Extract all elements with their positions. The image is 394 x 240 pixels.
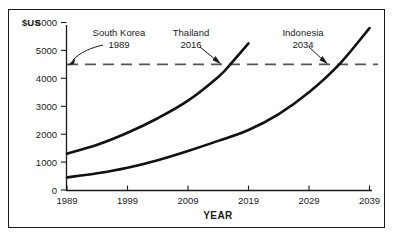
y-tick-label-2000: 2000 xyxy=(36,129,57,140)
annotation-indonesia-leader xyxy=(309,47,323,60)
x-axis-ticks xyxy=(67,186,370,191)
x-tick-label-1999: 1999 xyxy=(117,195,138,206)
annotation-south-korea-country: South Korea xyxy=(93,27,147,38)
annotation-thailand-country: Thailand xyxy=(173,27,209,38)
chart-figure: 6000 5000 4000 3000 2000 1000 0 $US 1989… xyxy=(0,0,394,240)
annotation-indonesia-country: Indonesia xyxy=(282,27,324,38)
annotation-thailand-year: 2016 xyxy=(180,39,201,50)
annotation-south-korea-leader xyxy=(73,45,104,61)
y-axis-unit-label: $US xyxy=(22,17,40,28)
annotation-south-korea: South Korea 1989 xyxy=(68,27,147,66)
y-tick-label-4000: 4000 xyxy=(36,73,57,84)
annotation-indonesia: Indonesia 2034 xyxy=(282,27,328,64)
x-tick-label-2019: 2019 xyxy=(238,195,259,206)
x-axis-title: YEAR xyxy=(203,210,233,221)
series-line-thailand xyxy=(67,43,249,153)
annotation-thailand-arrowhead xyxy=(213,56,222,64)
chart-plot-area: 6000 5000 4000 3000 2000 1000 0 $US 1989… xyxy=(0,0,394,240)
annotation-thailand-leader xyxy=(200,47,216,60)
x-tick-label-2009: 2009 xyxy=(177,195,198,206)
annotation-south-korea-year: 1989 xyxy=(108,39,129,50)
x-tick-label-1989: 1989 xyxy=(56,195,77,206)
annotation-indonesia-arrowhead xyxy=(320,56,329,64)
y-tick-label-3000: 3000 xyxy=(36,101,57,112)
annotation-thailand: Thailand 2016 xyxy=(173,27,221,64)
y-axis-ticks xyxy=(61,23,67,191)
y-tick-label-0: 0 xyxy=(52,185,57,196)
y-tick-label-5000: 5000 xyxy=(36,45,57,56)
x-tick-label-2029: 2029 xyxy=(298,195,319,206)
series-line-indonesia xyxy=(67,28,370,177)
y-tick-label-1000: 1000 xyxy=(36,157,57,168)
x-tick-label-2039: 2039 xyxy=(359,195,380,206)
